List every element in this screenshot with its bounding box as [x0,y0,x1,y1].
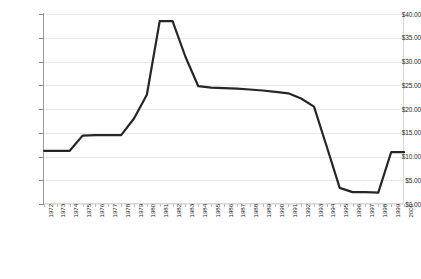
x-axis-tick-label: 2000 [407,204,414,217]
x-axis-labels: 1972197319741975197619771978197919801981… [0,204,421,279]
y-axis-tick-label: $5.00 [383,177,421,184]
x-axis-tick-label: 1993 [317,204,324,217]
y-axis-tick-label: $20.00 [383,106,421,113]
x-axis-tick-label: 1989 [265,204,272,217]
x-axis-tick [327,204,328,207]
x-axis-tick-label: 1986 [227,204,234,217]
y-axis-tick [39,180,44,181]
x-axis-tick [95,204,96,207]
x-axis-tick-label: 1995 [342,204,349,217]
x-axis-tick-label: 1990 [278,204,285,217]
x-axis-tick-label: 1976 [98,204,105,217]
gridline [44,38,404,39]
x-axis-tick-label: 1994 [329,204,336,217]
x-axis-tick [353,204,354,207]
y-axis-tick-label: $25.00 [383,82,421,89]
y-axis-tick-label: $30.00 [383,58,421,65]
y-axis-tick [39,157,44,158]
x-axis-tick [160,204,161,207]
x-axis-tick-label: 1987 [239,204,246,217]
x-axis-tick [134,204,135,207]
x-axis-tick-label: 1981 [162,204,169,217]
x-axis-tick [211,204,212,207]
x-axis-tick [173,204,174,207]
gridline [44,180,404,181]
x-axis-tick [275,204,276,207]
y-axis-tick [39,14,44,15]
x-axis-tick-label: 1978 [124,204,131,217]
x-axis-tick [224,204,225,207]
x-axis-tick [147,204,148,207]
line-chart: $40.00$35.00$30.00$25.00$20.00$15.00$10.… [0,0,421,279]
y-axis-tick-label: $35.00 [383,34,421,41]
x-axis-tick-label: 1984 [201,204,208,217]
x-axis-tick-label: 1992 [304,204,311,217]
x-axis-tick [70,204,71,207]
y-axis-tick [39,85,44,86]
x-axis-tick-label: 1973 [59,204,66,217]
gridline [44,157,404,158]
x-axis-tick [121,204,122,207]
y-axis-tick-label: $40.00 [383,11,421,18]
x-axis-tick-label: 1972 [47,204,54,217]
x-axis-tick-label: 1998 [381,204,388,217]
x-axis-tick-label: 1991 [291,204,298,217]
x-axis-tick-label: 1975 [85,204,92,217]
y-axis-tick [39,133,44,134]
y-axis-tick-label: $15.00 [383,129,421,136]
x-axis-tick [391,204,392,207]
x-axis-tick [404,204,405,207]
x-axis-tick [314,204,315,207]
x-axis-tick [237,204,238,207]
gridline [44,109,404,110]
x-axis-tick-label: 1985 [214,204,221,217]
x-axis-tick-label: 1997 [368,204,375,217]
gridline [44,14,404,15]
x-axis-tick [378,204,379,207]
y-axis-tick [39,109,44,110]
x-axis-tick [250,204,251,207]
y-axis-tick [39,62,44,63]
x-axis-tick [185,204,186,207]
x-axis-tick-label: 1983 [188,204,195,217]
gridline [44,62,404,63]
x-axis-tick-label: 1977 [111,204,118,217]
x-axis-tick [365,204,366,207]
x-axis-tick [108,204,109,207]
x-axis-tick-label: 1988 [252,204,259,217]
gridline [44,85,404,86]
x-axis-tick-label: 1980 [149,204,156,217]
x-axis-tick [340,204,341,207]
x-axis-tick-label: 1982 [175,204,182,217]
x-axis-tick [263,204,264,207]
y-axis-tick [39,38,44,39]
x-axis-tick [198,204,199,207]
x-axis-tick [44,204,45,207]
gridline [44,133,404,134]
x-axis-tick [301,204,302,207]
x-axis-tick [57,204,58,207]
x-axis-tick-label: 1974 [72,204,79,217]
x-axis-tick-label: 1996 [355,204,362,217]
x-axis-tick-label: 1979 [137,204,144,217]
y-axis-tick-label: $10.00 [383,153,421,160]
x-axis-tick [288,204,289,207]
x-axis-tick [83,204,84,207]
x-axis-tick-label: 1999 [394,204,401,217]
